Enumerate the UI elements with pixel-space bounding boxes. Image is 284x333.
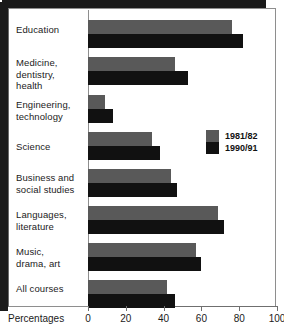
- bar-medicine-1981: [88, 57, 175, 71]
- category-label-education: Education: [16, 24, 88, 36]
- x-tick-60: [201, 306, 202, 311]
- x-axis-title: Percentages: [8, 313, 64, 324]
- bar-all-courses-1990: [88, 294, 175, 308]
- figure-container: Education Medicine, dentistry, health En…: [0, 0, 284, 333]
- bar-music-1990: [88, 257, 201, 271]
- bar-education-1990: [88, 34, 243, 48]
- legend-swatch-icon-1981: [206, 130, 219, 142]
- category-label-all-courses: All courses: [16, 283, 88, 295]
- category-label-music: Music, drama, art: [16, 246, 88, 269]
- bar-business-1981: [88, 169, 171, 183]
- chart-canvas: Education Medicine, dentistry, health En…: [0, 0, 284, 333]
- chart-legend: 1981/82 1990/91: [206, 130, 258, 154]
- legend-label-1990: 1990/91: [225, 143, 258, 153]
- category-label-science: Science: [16, 141, 88, 153]
- category-label-languages: Languages, literature: [16, 209, 88, 232]
- bar-music-1981: [88, 243, 196, 257]
- bar-all-courses-1981: [88, 280, 167, 294]
- x-tick-100: [277, 306, 278, 311]
- bar-science-1981: [88, 132, 152, 146]
- legend-item-1990: 1990/91: [206, 142, 258, 154]
- bar-engineering-1990: [88, 109, 113, 123]
- x-tick-label-0: 0: [85, 313, 91, 324]
- x-tick-label-100: 100: [269, 313, 284, 324]
- x-tick-0: [88, 306, 89, 311]
- bar-business-1990: [88, 183, 177, 197]
- category-label-engineering: Engineering, technology: [16, 99, 88, 122]
- bar-engineering-1981: [88, 95, 105, 109]
- x-tick-label-60: 60: [196, 313, 207, 324]
- x-tick-label-20: 20: [120, 313, 131, 324]
- legend-swatch-icon-1990: [206, 142, 219, 154]
- x-tick-20: [126, 306, 127, 311]
- category-label-medicine: Medicine, dentistry, health: [16, 57, 88, 92]
- legend-label-1981: 1981/82: [225, 131, 258, 141]
- bar-education-1981: [88, 20, 232, 34]
- bar-science-1990: [88, 146, 160, 160]
- legend-item-1981: 1981/82: [206, 130, 258, 142]
- bar-languages-1990: [88, 220, 224, 234]
- x-tick-label-40: 40: [158, 313, 169, 324]
- x-tick-label-80: 80: [234, 313, 245, 324]
- bar-medicine-1990: [88, 71, 188, 85]
- x-tick-40: [164, 306, 165, 311]
- bar-languages-1981: [88, 206, 218, 220]
- category-label-business: Business and social studies: [16, 172, 88, 195]
- x-tick-80: [239, 306, 240, 311]
